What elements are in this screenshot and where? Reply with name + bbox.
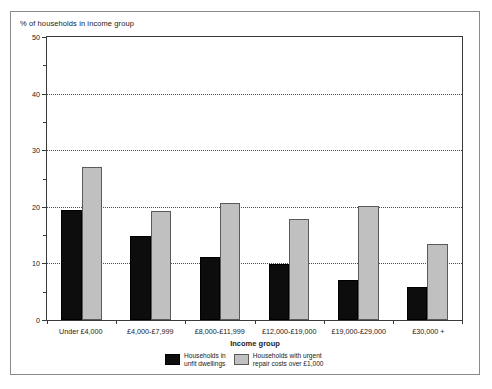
gridline-40 [47,94,462,95]
y-tick-label-20: 20 [32,202,40,211]
bar-series1-cat2 [220,203,240,320]
y-tick-label-10: 10 [32,259,40,268]
x-tick-0 [116,320,117,324]
x-tick-label-2: £8,000-£11,999 [195,327,245,336]
x-axis-title: Income group [230,339,280,348]
y-tick-label-0: 0 [36,316,40,325]
gridline-10 [47,263,462,264]
x-tick-2 [255,320,256,324]
bar-series0-cat1 [130,236,150,320]
x-tick-label-1: £4,000-£7,999 [127,327,173,336]
legend-label-repair-costs: Households with urgent repair costs over… [253,352,324,367]
y-minor-tick-5 [43,292,47,293]
x-tick-label-0: Under £4,000 [59,327,103,336]
chart-title: % of households in income group [20,19,134,28]
x-tick-4 [393,320,394,324]
y-minor-tick-35 [43,122,47,123]
bar-series1-cat4 [358,206,378,320]
x-tick-5 [462,320,463,324]
bar-series0-cat5 [407,287,427,320]
y-tick-10 [42,263,47,264]
x-tick-label-5: £30,000 + [412,327,444,336]
gridline-20 [47,207,462,208]
y-tick-50 [42,37,47,38]
x-tick-label-4: £19,000-£29,000 [332,327,386,336]
y-minor-tick-25 [43,179,47,180]
x-tick-3 [324,320,325,324]
legend-swatch-icon-dark [165,354,180,365]
bar-series1-cat1 [151,211,171,320]
legend-swatch-icon-light [234,354,249,365]
bar-series1-cat3 [289,219,309,320]
bar-series0-cat0 [61,210,81,320]
legend-label-unfit-dwellings: Households in unfit dwellings [184,352,226,367]
x-tick-label-3: £12,000-£19,000 [262,327,316,336]
y-tick-30 [42,150,47,151]
bar-series0-cat3 [269,264,289,320]
chart-figure: % of households in income group 01020304… [0,0,492,389]
y-tick-40 [42,94,47,95]
bar-series0-cat2 [200,257,220,320]
chart-legend: Households in unfit dwellings Households… [165,352,324,367]
x-tick-1 [185,320,186,324]
y-tick-20 [42,207,47,208]
x-tick-origin [47,320,48,324]
y-tick-label-30: 30 [32,146,40,155]
bar-series0-cat4 [338,280,358,320]
bar-series1-cat5 [427,244,447,320]
legend-item-unfit-dwellings: Households in unfit dwellings [165,352,226,367]
y-minor-tick-15 [43,235,47,236]
bar-series1-cat0 [82,167,102,320]
plot-inner: 01020304050 [47,37,462,320]
y-tick-label-40: 40 [32,89,40,98]
gridline-30 [47,150,462,151]
y-minor-tick-45 [43,65,47,66]
y-tick-label-50: 50 [32,33,40,42]
legend-item-repair-costs: Households with urgent repair costs over… [234,352,324,367]
plot-area: 01020304050 [46,36,463,321]
